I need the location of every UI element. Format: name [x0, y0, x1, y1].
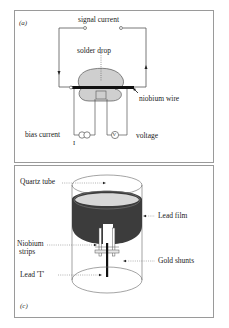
label-lead-film: Lead film [158, 212, 187, 220]
circuit-diagram [15, 11, 215, 164]
panel-a-circuit: (a) signal current solder drop niobium w… [14, 10, 214, 163]
panel-label-c: (c) [20, 303, 28, 310]
cylinder-diagram [15, 166, 215, 319]
label-voltage: voltage [136, 132, 158, 140]
label-signal-current: signal current [78, 16, 119, 24]
label-niobium-wire: niobium wire [139, 95, 179, 103]
panel-c-cylinder: Quartz tube Lead film Niobium strips Gol… [14, 165, 214, 318]
panel-label-a: (a) [19, 20, 27, 27]
current-source-icon [79, 132, 90, 138]
label-gold-shunts: Gold shunts [158, 257, 194, 265]
arrow-up-icon [145, 65, 148, 69]
lead-t [106, 243, 108, 277]
arrow-down-icon [58, 71, 61, 75]
label-voltmeter-symbol: V [113, 132, 117, 137]
label-niobium-strips-2: strips [19, 248, 35, 256]
label-lead-t: Lead 'T' [20, 271, 44, 279]
signal-terminal-left-icon [84, 27, 87, 30]
label-bias-current: bias current [25, 131, 60, 139]
signal-terminal-right-icon [120, 27, 123, 30]
label-solder-drop: solder drop [77, 47, 111, 55]
niobium-wire [71, 86, 134, 89]
label-current-symbol: I [73, 140, 75, 147]
label-quartz-tube: Quartz tube [20, 178, 55, 186]
